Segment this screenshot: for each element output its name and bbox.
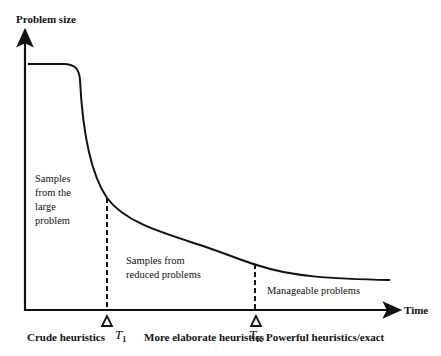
tk-subscript: K — [256, 335, 262, 344]
phase-label-powerful: Powerful heuristics/exact — [266, 330, 384, 344]
t1-triangle-marker — [102, 316, 112, 326]
phase-label-crude: Crude heuristics — [27, 330, 105, 344]
marker-tk-label: TK — [249, 328, 262, 347]
region-large-line-2: from the — [35, 186, 71, 200]
tk-triangle-marker — [251, 316, 261, 326]
region-large-line-4: problem — [35, 214, 71, 228]
region-large-line-3: large — [35, 200, 71, 214]
y-axis-label: Problem size — [16, 12, 76, 26]
problem-size-curve — [28, 64, 390, 280]
x-axis-label: Time — [404, 303, 428, 317]
region-reduced-line-1: Samples from — [126, 254, 201, 268]
region-label-large: Samples from the large problem — [35, 172, 71, 228]
region-label-reduced: Samples from reduced problems — [126, 254, 201, 282]
region-large-line-1: Samples — [35, 172, 71, 186]
t1-subscript: 1 — [122, 335, 126, 344]
region-label-manageable: Manageable problems — [267, 284, 360, 298]
marker-t1-label: T1 — [115, 328, 126, 347]
region-reduced-line-2: reduced problems — [126, 268, 201, 282]
phase-label-elaborate: More elaborate heuristics — [144, 330, 264, 344]
